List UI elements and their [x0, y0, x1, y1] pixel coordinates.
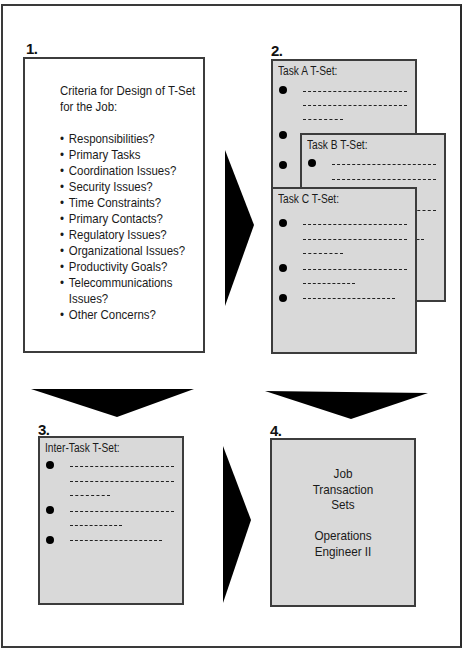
criteria-item: Responsibilities? [60, 131, 195, 147]
bullet-icon [308, 159, 316, 167]
placeholder-line [303, 91, 407, 92]
criteria-item: Security Issues? [60, 179, 195, 195]
bullet-icon [279, 131, 287, 139]
job-transaction-sets-label: Job Transaction Sets [279, 466, 407, 513]
bullet-icon [46, 536, 54, 544]
job-title-label: Operations Engineer II [279, 528, 407, 559]
down-arrow-icon [31, 389, 195, 419]
criteria-item: Other Concerns? [60, 307, 195, 323]
job-transaction-sets-card: Job Transaction Sets Operations Engineer… [270, 438, 416, 607]
down-arrow-icon [265, 391, 429, 421]
criteria-title-line-2: for the Job: [60, 99, 195, 115]
bullet-icon [46, 506, 54, 514]
criteria-list: Responsibilities? Primary Tasks Coordina… [60, 131, 195, 323]
placeholder-line [332, 179, 436, 180]
label-line: Job [279, 466, 407, 482]
placeholder-line [303, 119, 343, 120]
bullet-icon [279, 294, 287, 302]
placeholder-line [70, 525, 122, 526]
placeholder-line [70, 540, 162, 541]
label-line: Operations [279, 528, 407, 544]
placeholder-line [70, 495, 110, 496]
criteria-title: Criteria for Design of T-Set for the Job… [60, 83, 195, 115]
criteria-item: Coordination Issues? [60, 163, 195, 179]
label-line: Transaction [279, 482, 407, 498]
criteria-item: Organizational Issues? [60, 243, 195, 259]
criteria-item: Time Constraints? [60, 195, 195, 211]
criteria-item: Productivity Goals? [60, 259, 195, 275]
bullet-icon [46, 461, 54, 469]
criteria-item: Regulatory Issues? [60, 227, 195, 243]
step-2-number: 2. [271, 42, 283, 59]
step-4-number: 4. [270, 422, 282, 439]
criteria-box: Criteria for Design of T-Set for the Job… [23, 57, 205, 353]
placeholder-line [303, 298, 395, 299]
label-line: Engineer II [279, 544, 407, 560]
criteria-item: Primary Tasks [60, 147, 195, 163]
bullet-icon [279, 219, 287, 227]
bullet-icon [279, 86, 287, 94]
task-c-tset-card: Task C T-Set: [271, 187, 417, 354]
placeholder-line [70, 511, 174, 512]
task-c-title: Task C T-Set: [278, 192, 339, 206]
criteria-item: Primary Contacts? [60, 211, 195, 227]
placeholder-line [303, 269, 407, 270]
task-a-title: Task A T-Set: [278, 64, 337, 78]
criteria-content: Criteria for Design of T-Set for the Job… [60, 83, 195, 323]
inter-task-tset-card: Inter-Task T-Set: [38, 436, 184, 605]
step-1-number: 1. [26, 40, 38, 57]
placeholder-line [70, 481, 174, 482]
inter-task-title: Inter-Task T-Set: [45, 441, 120, 455]
bullet-icon [279, 264, 287, 272]
placeholder-line [303, 224, 407, 225]
bullet-icon [279, 161, 287, 169]
criteria-item: Telecommunications [60, 275, 195, 291]
placeholder-line [332, 164, 436, 165]
placeholder-line [70, 466, 174, 467]
placeholder-line [303, 105, 407, 106]
right-arrow-icon [223, 446, 253, 604]
label-line: Sets [279, 497, 407, 513]
task-b-title: Task B T-Set: [307, 138, 367, 152]
placeholder-line [303, 283, 355, 284]
placeholder-line [303, 239, 407, 240]
criteria-item-continuation: Issues? [60, 291, 195, 307]
criteria-title-line-1: Criteria for Design of T-Set [60, 83, 195, 99]
placeholder-line [303, 253, 343, 254]
right-arrow-icon [225, 150, 255, 307]
